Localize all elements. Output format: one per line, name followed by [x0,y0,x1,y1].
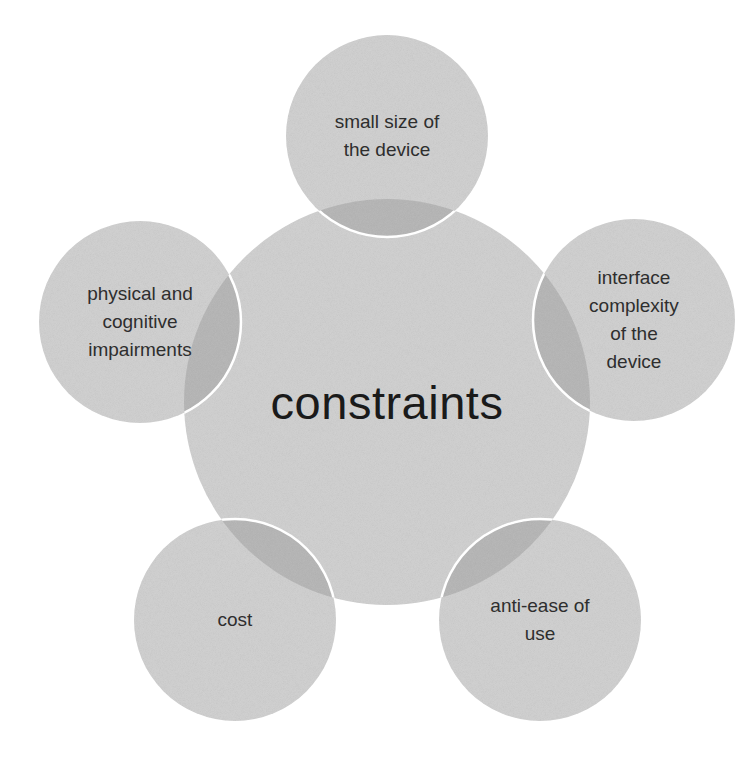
diagram-canvas [0,0,753,758]
constraints-diagram: constraints small size of the device int… [0,0,753,758]
